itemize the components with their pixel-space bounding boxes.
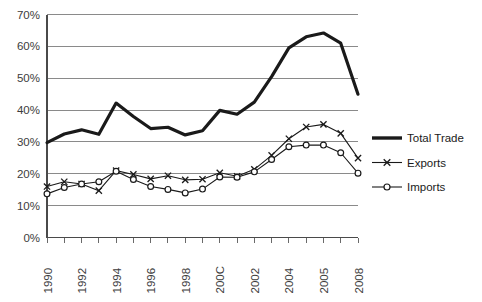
x-axis-tick-label: 2008 (353, 268, 365, 294)
data-point-marker (269, 157, 275, 163)
x-axis-tick-label: 1994 (111, 267, 123, 293)
data-point-marker (113, 168, 119, 174)
legend-item-total-trade[interactable]: Total Trade (372, 132, 464, 144)
y-axis-tick-label: 20% (17, 168, 40, 180)
x-axis-tick-label: 1996 (145, 268, 157, 294)
chart-container: 70%60%50%40%30%20%10%0% 1990199219941996… (0, 0, 482, 302)
legend-label: Imports (407, 181, 446, 193)
legend-label: Exports (407, 157, 446, 169)
y-axis-tick-label: 50% (17, 72, 40, 84)
data-point-marker (251, 169, 257, 175)
x-axis-tick-label: 2004 (283, 267, 295, 293)
data-point-marker (355, 170, 361, 176)
data-point-marker (338, 130, 344, 136)
data-point-marker (130, 177, 136, 183)
data-point-marker (286, 144, 292, 150)
y-axis-tick-labels: 70%60%50%40%30%20%10%0% (17, 9, 40, 244)
data-point-marker (200, 186, 206, 192)
legend-marker-circle-icon (384, 184, 390, 190)
data-point-marker (44, 191, 50, 197)
data-point-marker (79, 181, 85, 187)
y-axis-tick-label: 60% (17, 40, 40, 52)
x-axis-tick-labels: 19901992199419961998200C2002200420052008 (42, 266, 365, 294)
data-point-marker (61, 185, 67, 191)
x-axis-tick-label: 1990 (42, 268, 54, 294)
chart-legend: Total TradeExportsImports (372, 132, 464, 193)
legend-item-exports[interactable]: Exports (372, 157, 446, 169)
y-axis-tick-label: 30% (17, 136, 40, 148)
y-axis-tick-label: 70% (17, 9, 40, 21)
data-point-marker (234, 174, 240, 180)
x-axis-tick-label: 1998 (180, 268, 192, 294)
data-point-marker (96, 179, 102, 185)
data-series (44, 33, 361, 197)
legend-item-imports[interactable]: Imports (372, 181, 446, 193)
x-axis-tick-label: 2002 (249, 268, 261, 294)
x-axis-tick-label: 1992 (76, 268, 88, 294)
series-imports (44, 142, 361, 197)
line-chart: 70%60%50%40%30%20%10%0% 1990199219941996… (0, 0, 482, 302)
x-axis-tick-label: 2005 (318, 268, 330, 294)
y-axis-tick-label: 10% (17, 200, 40, 212)
data-point-marker (148, 184, 154, 190)
x-axis-tickmarks (47, 238, 358, 243)
data-point-marker (96, 188, 102, 194)
data-point-marker (355, 155, 361, 161)
x-axis-tick-label: 200C (214, 266, 226, 294)
data-point-marker (303, 142, 309, 148)
y-axis-tick-label: 40% (17, 104, 40, 116)
data-point-marker (182, 190, 188, 196)
legend-label: Total Trade (407, 132, 464, 144)
data-point-marker (286, 136, 292, 142)
y-axis-tick-label: 0% (23, 232, 40, 244)
data-point-marker (217, 174, 223, 180)
data-point-marker (165, 186, 171, 192)
data-point-marker (338, 150, 344, 156)
data-point-marker (321, 142, 327, 148)
